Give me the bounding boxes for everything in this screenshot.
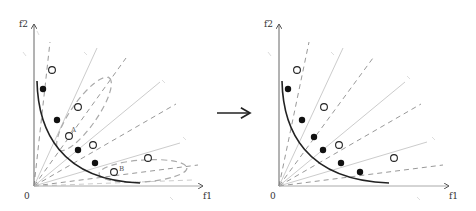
y-axis-label: f2 [264, 19, 273, 29]
origin-label: 0 [24, 191, 30, 201]
right-reference-rays [279, 42, 443, 186]
x-axis-label: f1 [203, 191, 212, 201]
y-axis-label: f2 [19, 19, 28, 29]
pareto-front-curve [37, 81, 140, 183]
dashed-ray [34, 180, 192, 186]
pareto-front-diagram: A B f2 0 f1 [0, 0, 476, 211]
left-panel: A B f2 0 f1 [19, 19, 212, 201]
solid-ray [34, 48, 97, 186]
point-b [111, 169, 118, 176]
point-a-label: A [70, 126, 77, 134]
right-panel: f2 0 f1 [264, 19, 458, 201]
right-open-points [294, 67, 398, 162]
x-axis-label: f1 [449, 191, 458, 201]
point-b-label: B [119, 165, 124, 173]
origin-label: 0 [270, 191, 276, 201]
